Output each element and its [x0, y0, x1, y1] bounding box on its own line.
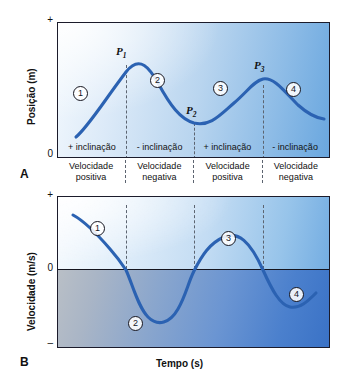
p3-sub: 3	[261, 65, 265, 74]
velocity-caption-2-line2: negativa	[125, 172, 193, 183]
panel-a-slope-labels: + inclinação - inclinação + inclinação -…	[58, 142, 329, 152]
panel-b-velocity-curve-path	[58, 197, 330, 348]
panel-b-segment-number-4: 4	[289, 287, 304, 302]
panel-a-segment-number-3: 3	[213, 81, 228, 96]
slope-label-3: + inclinação	[194, 142, 262, 152]
velocity-caption-4-line2: negativa	[262, 172, 330, 183]
panel-b-plot: 1 2 3 4	[57, 196, 330, 348]
panel-a-ytick-bottom: 0	[40, 148, 53, 159]
p2-sub: 2	[193, 110, 197, 119]
p2-base: P	[186, 104, 193, 116]
panel-b-ytick-bottom: –	[40, 337, 53, 348]
panel-a-point-label-p3: P3	[254, 59, 264, 74]
slope-label-2: - inclinação	[126, 142, 194, 152]
panel-a-y-axis-label: Posição (m)	[26, 68, 37, 125]
p3-base: P	[254, 59, 261, 71]
p1-sub: 1	[123, 51, 127, 60]
panel-a-point-label-p2: P2	[186, 104, 196, 119]
velocity-caption-1: Velocidade positiva	[57, 161, 125, 182]
velocity-caption-1-line2: positiva	[57, 172, 125, 183]
velocity-caption-separator-1	[125, 160, 126, 183]
panel-b-y-axis-label: Velocidade (m/s)	[26, 252, 37, 331]
velocity-caption-4-line1: Velocidade	[262, 161, 330, 172]
panel-a-letter: A	[20, 167, 29, 181]
velocity-caption-4: Velocidade negativa	[262, 161, 330, 182]
velocity-caption-separator-3	[262, 160, 263, 183]
panel-b-ytick-zero: 0	[40, 262, 53, 273]
panel-b-segment-number-2: 2	[128, 316, 143, 331]
p1-base: P	[116, 45, 123, 57]
panel-b-x-axis-label: Tempo (s)	[156, 358, 203, 369]
panel-a-plot: P1 P2 P3 1 2 3 4 + inclinação - inclinaç…	[57, 22, 330, 158]
velocity-caption-2-line1: Velocidade	[125, 161, 193, 172]
velocity-caption-3: Velocidade positiva	[194, 161, 262, 182]
panel-a-segment-number-1: 1	[73, 86, 88, 101]
velocity-caption-3-line1: Velocidade	[194, 161, 262, 172]
velocity-caption-1-line1: Velocidade	[57, 161, 125, 172]
slope-label-4: - inclinação	[261, 142, 329, 152]
panel-b-ytick-top: +	[40, 189, 53, 200]
panel-a-segment-number-2: 2	[150, 73, 165, 88]
velocity-caption-2: Velocidade negativa	[125, 161, 193, 182]
panel-b-segment-number-1: 1	[90, 221, 105, 236]
velocity-caption-3-line2: positiva	[194, 172, 262, 183]
velocity-caption-separator-2	[193, 160, 194, 183]
slope-label-1: + inclinação	[58, 142, 126, 152]
panel-b-letter: B	[20, 355, 29, 369]
position-velocity-figure: Posição (m) + 0 A P1 P2 P3 1 2 3 4 + inc…	[0, 0, 349, 380]
panel-a-segment-number-4: 4	[286, 82, 301, 97]
panel-a-ytick-top: +	[40, 14, 53, 25]
panel-b-segment-number-3: 3	[221, 231, 236, 246]
panel-a-point-label-p1: P1	[116, 45, 126, 60]
